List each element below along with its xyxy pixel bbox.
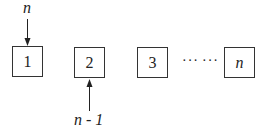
- ellipsis-2: ···: [202, 53, 219, 69]
- box-2: 2: [74, 47, 105, 78]
- box-2-label: 2: [86, 54, 94, 72]
- bottom-arrow-icon: [87, 79, 93, 111]
- box-n-label: n: [236, 54, 244, 72]
- bottom-pointer-text: n - 1: [74, 111, 103, 128]
- top-pointer-label: n: [23, 0, 31, 17]
- ellipsis-1: ···: [182, 53, 199, 69]
- top-arrow-icon: [25, 19, 31, 46]
- bottom-pointer-label: n - 1: [74, 111, 103, 129]
- box-3: 3: [137, 47, 168, 78]
- box-3-label: 3: [149, 54, 157, 72]
- box-1-label: 1: [24, 53, 32, 71]
- box-1: 1: [12, 46, 43, 77]
- box-n: n: [224, 47, 255, 78]
